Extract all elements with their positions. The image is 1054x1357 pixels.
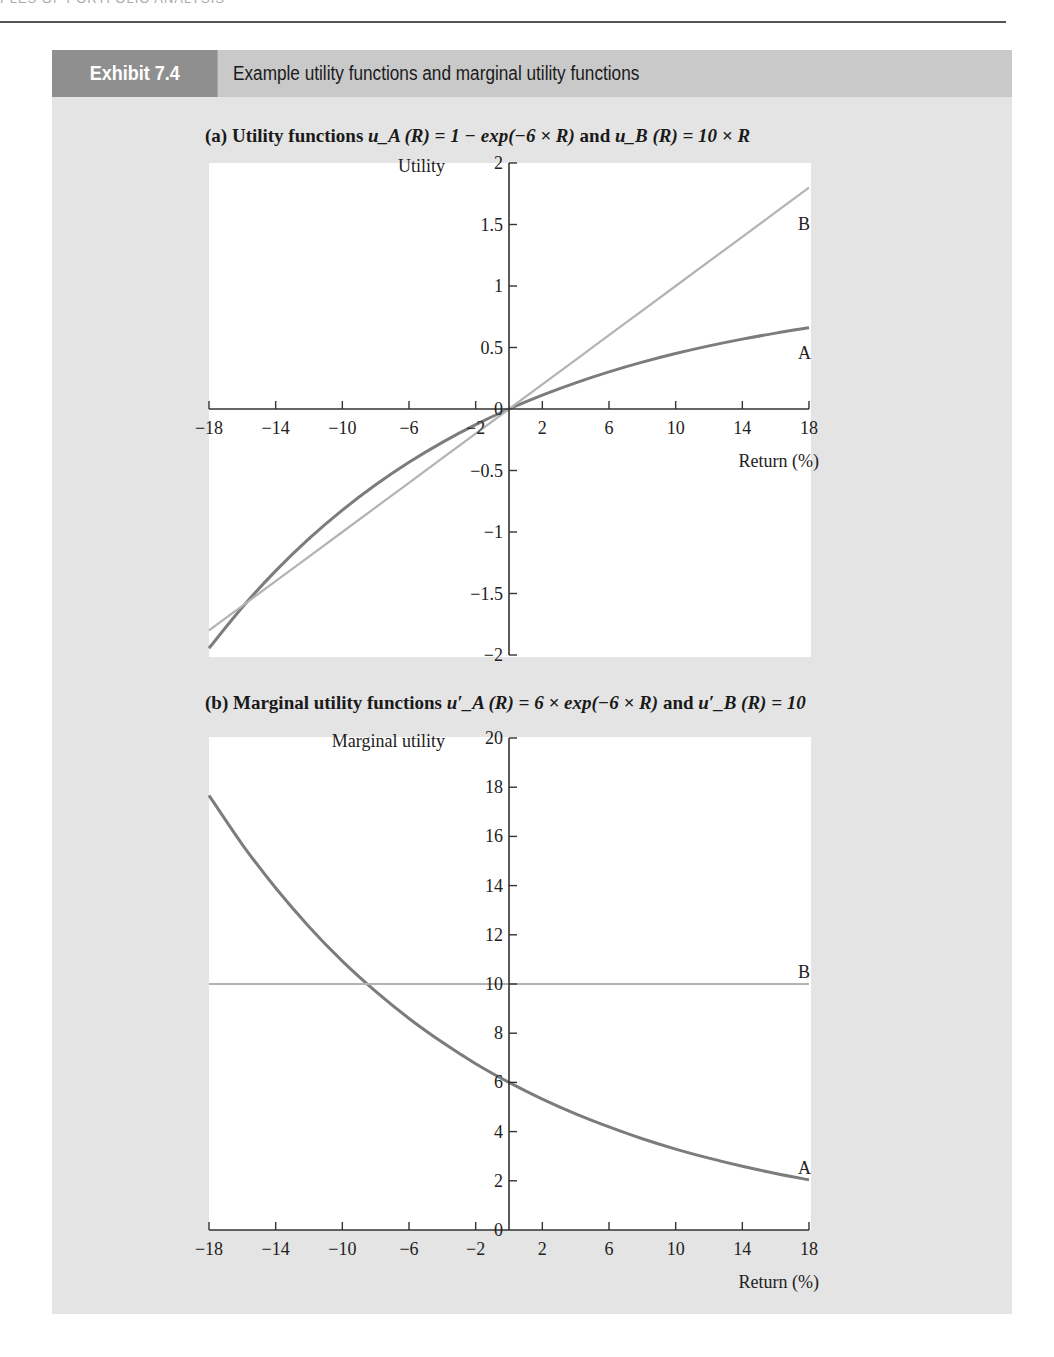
x-tick-label-a: −14 bbox=[262, 418, 290, 438]
x-tick-label-b: 18 bbox=[800, 1239, 818, 1259]
x-tick-label-b: −2 bbox=[466, 1239, 485, 1259]
y-tick-label-b: 0 bbox=[494, 1220, 503, 1240]
y-tick-label-b: 20 bbox=[485, 728, 503, 748]
y-tick-label-b: 4 bbox=[494, 1122, 503, 1142]
y-tick-label-a: −1.5 bbox=[470, 584, 503, 604]
y-tick-label-a: 2 bbox=[494, 153, 503, 173]
y-tick-label-b: 12 bbox=[485, 925, 503, 945]
x-tick-label-a: −2 bbox=[466, 418, 485, 438]
y-tick-label-a: −2 bbox=[484, 645, 503, 665]
x-tick-label-a: −6 bbox=[399, 418, 418, 438]
x-tick-label-a: 2 bbox=[538, 418, 547, 438]
x-tick-label-a: −10 bbox=[328, 418, 356, 438]
x-tick-label-a: 10 bbox=[667, 418, 685, 438]
y-tick-label-b: 14 bbox=[485, 876, 503, 896]
series-a-a-label: A bbox=[798, 343, 811, 363]
y-tick-label-a: 0.5 bbox=[481, 338, 504, 358]
x-tick-label-a: 6 bbox=[605, 418, 614, 438]
y-tick-label-b: 6 bbox=[494, 1072, 503, 1092]
series-a-b-label: B bbox=[798, 214, 810, 234]
x-tick-label-b: 2 bbox=[538, 1239, 547, 1259]
x-axis-title-a: Return (%) bbox=[739, 451, 819, 472]
x-tick-label-b: −10 bbox=[328, 1239, 356, 1259]
y-tick-label-b: 10 bbox=[485, 974, 503, 994]
x-tick-label-a: 14 bbox=[733, 418, 751, 438]
x-tick-label-b: 6 bbox=[605, 1239, 614, 1259]
y-tick-label-b: 8 bbox=[494, 1023, 503, 1043]
chart-a-utility: AB−18−14−10−6−226101418−2−1.5−1−0.500.51… bbox=[0, 0, 1054, 1357]
y-axis-title-a: Utility bbox=[398, 156, 445, 176]
y-tick-label-a: −1 bbox=[484, 522, 503, 542]
x-tick-label-b: −6 bbox=[399, 1239, 418, 1259]
series-b-b-label: B bbox=[798, 962, 810, 982]
y-axis-title-b: Marginal utility bbox=[332, 731, 445, 751]
x-axis-title-b: Return (%) bbox=[739, 1272, 819, 1293]
x-tick-label-a: −18 bbox=[195, 418, 223, 438]
y-tick-label-b: 16 bbox=[485, 826, 503, 846]
y-tick-label-a: 1 bbox=[494, 276, 503, 296]
y-tick-label-a: 1.5 bbox=[481, 215, 504, 235]
x-tick-label-b: −14 bbox=[262, 1239, 290, 1259]
x-tick-label-b: 14 bbox=[733, 1239, 751, 1259]
x-tick-label-b: −18 bbox=[195, 1239, 223, 1259]
x-tick-label-b: 10 bbox=[667, 1239, 685, 1259]
y-tick-label-b: 18 bbox=[485, 777, 503, 797]
y-tick-label-a: 0 bbox=[494, 399, 503, 419]
y-tick-label-b: 2 bbox=[494, 1171, 503, 1191]
x-tick-label-a: 18 bbox=[800, 418, 818, 438]
y-tick-label-a: −0.5 bbox=[470, 461, 503, 481]
series-b-a-label: A bbox=[798, 1158, 811, 1178]
